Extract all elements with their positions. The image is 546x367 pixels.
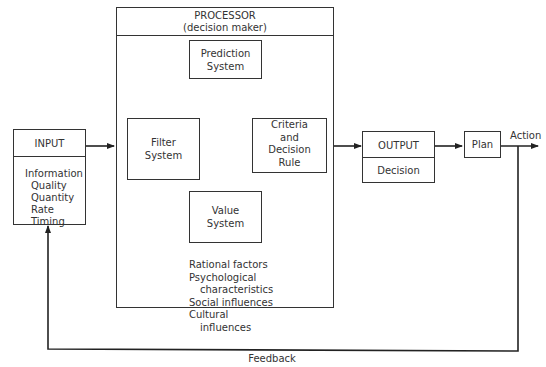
criteria-decision-rule-label: Criteria and Decision Rule [252, 119, 327, 169]
output-header-divider [362, 157, 435, 158]
processor-header-divider [116, 35, 334, 36]
factor-psychological: Psychological [189, 272, 273, 285]
input-item-information: Information [25, 168, 83, 180]
factor-cultural: Cultural [189, 309, 273, 322]
value-line1: Value [189, 204, 262, 217]
processor-factors-list: Rational factors Psychological character… [189, 259, 273, 334]
criteria-line1: Criteria [252, 119, 327, 132]
output-decision: Decision [362, 164, 435, 177]
output-title: OUTPUT [362, 139, 435, 152]
factor-cultural-cont: influences [189, 322, 273, 335]
input-title: INPUT [13, 137, 86, 150]
prediction-system-label: Prediction System [189, 47, 262, 73]
factor-psychological-cont: characteristics [189, 284, 273, 297]
factor-rational: Rational factors [189, 259, 273, 272]
plan-label: Plan [464, 138, 501, 151]
input-item-rate: Rate [25, 204, 83, 216]
criteria-line2: and [252, 132, 327, 145]
criteria-line3: Decision [252, 144, 327, 157]
feedback-label: Feedback [240, 352, 304, 365]
factor-social: Social influences [189, 297, 273, 310]
input-header-divider [13, 156, 86, 157]
input-item-timing: Timing [25, 216, 83, 228]
filter-line2: System [127, 149, 200, 162]
filter-line1: Filter [127, 136, 200, 149]
value-system-label: Value System [189, 204, 262, 230]
criteria-line4: Rule [252, 157, 327, 170]
prediction-line2: System [189, 60, 262, 73]
processor-subtitle: (decision maker) [116, 21, 334, 34]
action-label: Action [510, 129, 546, 142]
filter-system-label: Filter System [127, 136, 200, 162]
input-items-list: Information Quality Quantity Rate Timing [25, 168, 83, 228]
value-line2: System [189, 217, 262, 230]
input-item-quality: Quality [25, 180, 83, 192]
prediction-line1: Prediction [189, 47, 262, 60]
input-item-quantity: Quantity [25, 192, 83, 204]
